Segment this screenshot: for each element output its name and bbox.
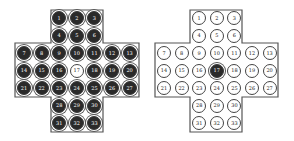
peg-hole-filled: 2: [70, 11, 84, 25]
peg-hole-filled: 15: [35, 64, 49, 78]
peg-hole-empty: 22: [175, 81, 189, 95]
peg-hole-filled: 7: [17, 46, 31, 60]
peg-hole-filled: 20: [123, 64, 137, 78]
peg-hole-empty: 4: [192, 29, 206, 43]
peg-hole-filled: 19: [105, 64, 119, 78]
peg-hole-filled: 6: [87, 29, 101, 43]
peg-hole-filled: 26: [105, 81, 119, 95]
peg-hole-empty: 28: [192, 99, 206, 113]
peg-hole-filled: 8: [35, 46, 49, 60]
peg-hole-filled: 21: [17, 81, 31, 95]
peg-hole-filled: 17: [210, 64, 224, 78]
peg-hole-filled: 18: [87, 64, 101, 78]
peg-hole-empty: 30: [227, 99, 241, 113]
peg-hole-filled: 16: [52, 64, 66, 78]
peg-hole-empty: 6: [227, 29, 241, 43]
peg-hole-empty: 29: [210, 99, 224, 113]
peg-hole-empty: 13: [263, 46, 277, 60]
peg-hole-empty: 17: [70, 64, 84, 78]
peg-hole-empty: 7: [157, 46, 171, 60]
peg-hole-empty: 14: [157, 64, 171, 78]
peg-hole-filled: 13: [123, 46, 137, 60]
peg-hole-empty: 18: [227, 64, 241, 78]
peg-hole-filled: 28: [52, 99, 66, 113]
peg-hole-filled: 12: [105, 46, 119, 60]
peg-hole-filled: 10: [70, 46, 84, 60]
peg-hole-empty: 32: [210, 116, 224, 130]
peg-hole-filled: 27: [123, 81, 137, 95]
peg-hole-filled: 29: [70, 99, 84, 113]
peg-hole-empty: 24: [210, 81, 224, 95]
peg-hole-filled: 4: [52, 29, 66, 43]
peg-hole-empty: 27: [263, 81, 277, 95]
peg-hole-filled: 30: [87, 99, 101, 113]
peg-hole-filled: 24: [70, 81, 84, 95]
peg-hole-filled: 5: [70, 29, 84, 43]
peg-hole-empty: 20: [263, 64, 277, 78]
peg-hole-empty: 2: [210, 11, 224, 25]
peg-hole-filled: 22: [35, 81, 49, 95]
peg-hole-empty: 21: [157, 81, 171, 95]
peg-hole-empty: 19: [245, 64, 259, 78]
peg-hole-empty: 10: [210, 46, 224, 60]
peg-hole-filled: 14: [17, 64, 31, 78]
peg-hole-empty: 16: [192, 64, 206, 78]
peg-hole-empty: 26: [245, 81, 259, 95]
peg-hole-empty: 15: [175, 64, 189, 78]
peg-hole-empty: 12: [245, 46, 259, 60]
peg-hole-empty: 5: [210, 29, 224, 43]
peg-hole-filled: 32: [70, 116, 84, 130]
peg-hole-empty: 8: [175, 46, 189, 60]
